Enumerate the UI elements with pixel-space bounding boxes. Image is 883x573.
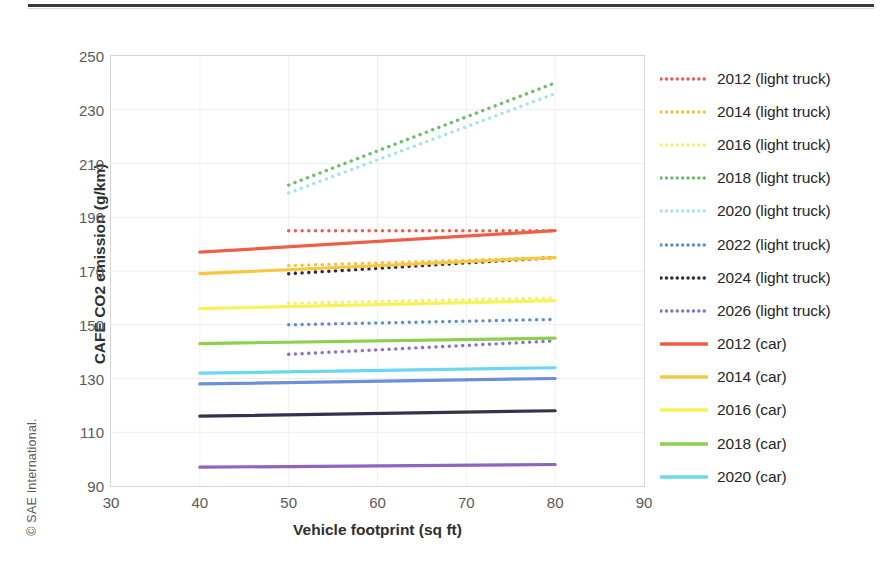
y-tick-label: 110	[52, 424, 104, 441]
legend-item-label: 2020 (car)	[717, 468, 787, 486]
legend-item-label: 2026 (light truck)	[717, 302, 831, 320]
legend-item-label: 2024 (light truck)	[717, 269, 831, 287]
legend-item[interactable]: 2016 (light truck)	[660, 128, 883, 161]
chart-legend: 2012 (light truck)2014 (light truck)2016…	[660, 62, 883, 493]
x-tick-label: 40	[170, 494, 230, 511]
y-tick-label: 210	[52, 155, 104, 172]
legend-swatch-icon	[660, 471, 708, 483]
series-line	[289, 83, 556, 185]
series-line	[289, 319, 556, 324]
legend-swatch-icon	[660, 404, 708, 416]
y-tick-label: 170	[52, 263, 104, 280]
legend-item-label: 2018 (light truck)	[717, 169, 831, 187]
y-tick-label: 150	[52, 316, 104, 333]
legend-item[interactable]: 2022 (light truck)	[660, 228, 883, 261]
x-axis-tick-labels: 30405060708090	[110, 494, 645, 518]
y-tick-label: 190	[52, 209, 104, 226]
legend-item[interactable]: 2018 (car)	[660, 427, 883, 460]
x-axis-title: Vehicle footprint (sq ft)	[110, 521, 645, 539]
legend-item[interactable]: 2024 (light truck)	[660, 261, 883, 294]
plot-area	[110, 55, 645, 487]
plot-svg	[111, 56, 644, 486]
legend-item-label: 2014 (light truck)	[717, 103, 831, 121]
legend-swatch-icon	[660, 106, 708, 118]
legend-item[interactable]: 2016 (car)	[660, 394, 883, 427]
x-tick-label: 60	[348, 494, 408, 511]
legend-item-label: 2022 (light truck)	[717, 236, 831, 254]
y-tick-label: 230	[52, 101, 104, 118]
legend-item[interactable]: 2014 (car)	[660, 361, 883, 394]
chart-figure: CAFE CO2 emission (g/km) Vehicle footpri…	[0, 0, 883, 573]
legend-swatch-icon	[660, 239, 708, 251]
legend-item[interactable]: 2012 (light truck)	[660, 62, 883, 95]
legend-item[interactable]: 2012 (car)	[660, 328, 883, 361]
legend-item[interactable]: 2014 (light truck)	[660, 95, 883, 128]
series-line	[200, 465, 555, 468]
legend-swatch-icon	[660, 272, 708, 284]
legend-swatch-icon	[660, 172, 708, 184]
legend-swatch-icon	[660, 139, 708, 151]
legend-swatch-icon	[660, 305, 708, 317]
legend-swatch-icon	[660, 371, 708, 383]
x-tick-label: 50	[259, 494, 319, 511]
legend-swatch-icon	[660, 205, 708, 217]
legend-item[interactable]: 2018 (light truck)	[660, 162, 883, 195]
y-axis-tick-labels: 25023021019017015013011090	[48, 55, 104, 487]
legend-item[interactable]: 2020 (light truck)	[660, 195, 883, 228]
legend-item-label: 2016 (car)	[717, 401, 787, 419]
y-tick-label: 130	[52, 370, 104, 387]
y-tick-label: 250	[52, 48, 104, 65]
series-line	[289, 94, 556, 193]
legend-swatch-icon	[660, 438, 708, 450]
legend-swatch-icon	[660, 338, 708, 350]
legend-item[interactable]: 2026 (light truck)	[660, 294, 883, 327]
x-tick-label: 90	[614, 494, 674, 511]
legend-item-label: 2012 (car)	[717, 335, 787, 353]
legend-item-label: 2014 (car)	[717, 368, 787, 386]
x-tick-label: 80	[525, 494, 585, 511]
y-tick-label: 90	[52, 478, 104, 495]
x-tick-label: 70	[436, 494, 496, 511]
legend-item-label: 2016 (light truck)	[717, 136, 831, 154]
legend-item-label: 2018 (car)	[717, 435, 787, 453]
legend-item[interactable]: 2020 (car)	[660, 460, 883, 493]
legend-item-label: 2020 (light truck)	[717, 202, 831, 220]
legend-item-label: 2012 (light truck)	[717, 70, 831, 88]
legend-swatch-icon	[660, 73, 708, 85]
x-tick-label: 30	[81, 494, 141, 511]
